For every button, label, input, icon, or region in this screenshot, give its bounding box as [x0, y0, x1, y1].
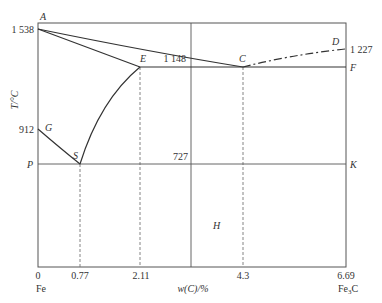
- x-end-fe3c: Fe3C: [338, 283, 359, 296]
- x-tick-0.77: 0.77: [71, 270, 89, 281]
- label-A: A: [39, 11, 47, 22]
- tick-912: 912: [19, 124, 34, 135]
- label-F: F: [349, 62, 357, 73]
- fe3c-tail: C: [352, 283, 359, 294]
- label-K: K: [349, 159, 358, 170]
- x-axis-label: w(C)/%: [177, 283, 208, 295]
- y-axis-label: T/°C: [9, 90, 20, 109]
- label-G: G: [45, 122, 52, 133]
- label-P: P: [26, 159, 33, 170]
- label-E: E: [139, 53, 146, 64]
- liquidus-cd: [243, 49, 345, 67]
- fe3c-main: Fe: [338, 283, 349, 294]
- x-tick-0: 0: [36, 270, 41, 281]
- x-tick-6.69: 6.69: [337, 270, 355, 281]
- isotherm-1227: 1 227: [350, 44, 373, 55]
- isotherm-727: 727: [173, 151, 188, 162]
- fe-c-phase-diagram: A E C D F G S P K H 1 538 912 1 148 727 …: [0, 0, 382, 303]
- tick-1538: 1 538: [12, 24, 35, 35]
- label-S: S: [73, 150, 78, 161]
- diagram-frame: [38, 23, 346, 267]
- x-tick-2.11: 2.11: [132, 270, 149, 281]
- label-H: H: [212, 220, 221, 231]
- label-C: C: [239, 53, 246, 64]
- es-line: [80, 67, 140, 164]
- x-end-fe: Fe: [36, 283, 47, 294]
- solidus-ae: [38, 29, 140, 67]
- x-tick-4.3: 4.3: [237, 270, 250, 281]
- label-D: D: [331, 36, 340, 47]
- isotherm-1148: 1 148: [164, 53, 187, 64]
